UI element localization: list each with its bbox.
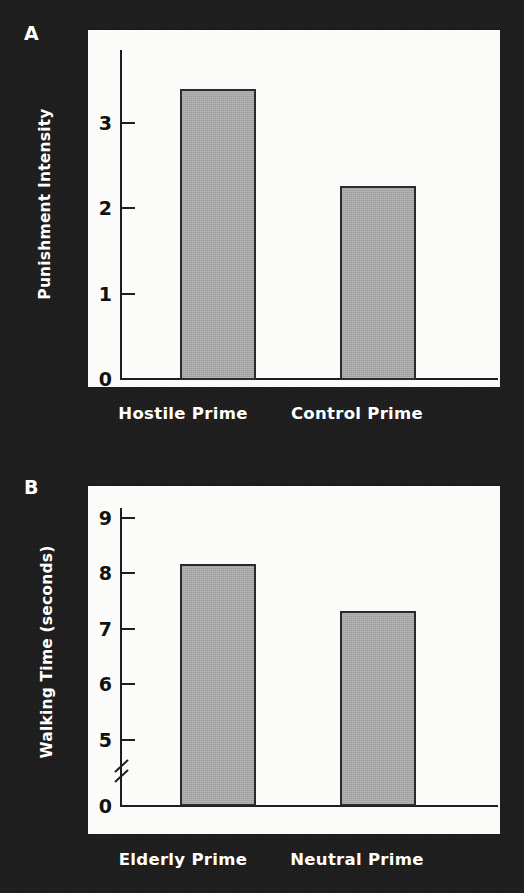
panel-b-tick-6 — [122, 683, 135, 685]
panel-a: A Punishment Intensity 3 2 1 0 — [0, 0, 524, 448]
panel-b-category-label-0: Elderly Prime — [98, 850, 268, 869]
panel-a-y-axis-line — [120, 50, 122, 380]
panel-b-tick-8 — [122, 572, 135, 574]
panel-a-plot-area: 3 2 1 0 — [88, 30, 500, 387]
panel-a-letter: A — [24, 22, 39, 44]
panel-b-tick-5 — [122, 739, 135, 741]
panel-a-y-axis-title: Punishment Intensity — [36, 99, 54, 309]
panel-a-category-label-1: Control Prime — [272, 404, 442, 423]
panel-b-tick-9 — [122, 517, 135, 519]
figure-root: A Punishment Intensity 3 2 1 0 — [0, 0, 524, 893]
panel-a-bar-hostile-prime — [180, 89, 256, 380]
panel-a-tick-3 — [122, 122, 135, 124]
panel-b-tick-label-6: 6 — [86, 673, 112, 695]
panel-b-x-axis-line — [120, 805, 498, 807]
panel-b: B Walking Time (seconds) — [0, 448, 524, 893]
panel-b-tick-label-5: 5 — [86, 729, 112, 751]
panel-b-y-axis-title: Walking Time (seconds) — [38, 532, 56, 772]
panel-b-plot-inner: 9 8 7 6 5 0 — [88, 486, 500, 834]
panel-b-tick-7 — [122, 628, 135, 630]
panel-a-tick-label-3: 3 — [86, 112, 112, 134]
panel-b-axis-break-icon — [112, 758, 132, 784]
panel-a-tick-label-2: 2 — [86, 197, 112, 219]
panel-a-plot-inner: 3 2 1 0 — [88, 30, 500, 387]
panel-b-bar-neutral-prime — [340, 611, 416, 806]
panel-a-tick-label-0: 0 — [86, 368, 112, 390]
panel-a-tick-2 — [122, 207, 135, 209]
panel-b-bar-elderly-prime — [180, 564, 256, 806]
panel-b-category-label-1: Neutral Prime — [272, 850, 442, 869]
panel-a-tick-1 — [122, 293, 135, 295]
panel-b-letter: B — [24, 476, 39, 498]
panel-b-tick-label-8: 8 — [86, 562, 112, 584]
panel-b-tick-label-7: 7 — [86, 618, 112, 640]
panel-a-bar-control-prime — [340, 186, 416, 380]
panel-a-x-axis-line — [120, 378, 498, 380]
panel-a-category-label-0: Hostile Prime — [98, 404, 268, 423]
panel-b-tick-label-0: 0 — [86, 795, 112, 817]
panel-b-tick-label-9: 9 — [86, 507, 112, 529]
panel-a-tick-label-1: 1 — [86, 283, 112, 305]
panel-b-plot-area: 9 8 7 6 5 0 — [88, 486, 500, 834]
